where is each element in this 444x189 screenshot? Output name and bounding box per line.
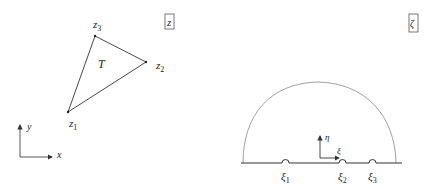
point-label-xi2: ξ2 [338,170,347,185]
point-label-xi1: ξ1 [281,170,290,185]
point-label-xi3: ξ3 [368,170,377,185]
real-axis-with-indentations [241,160,402,164]
conformal-map-diagram: z T z1 z2 z3 y x ζ η ξ ξ1 ξ2 ξ3 [0,0,444,189]
region-label-T: T [98,57,106,71]
vertex-label-z3: z3 [92,18,101,33]
semicircle-boundary [243,82,396,163]
zeta-plane-box-label: ζ [410,18,415,30]
triangle-T [68,36,146,112]
xi-axis-label: ξ [337,146,341,156]
eta-axis-label: η [325,132,330,142]
x-axis-label: x [56,149,62,160]
z-plane-panel: z T z1 z2 z3 y x [20,14,174,160]
vertex-z2-dot [145,61,147,63]
y-axis-label: y [26,121,32,132]
vertex-z3-dot [94,35,96,37]
z-plane-box-label: z [166,16,172,28]
vertex-z1-dot [67,111,69,113]
vertex-label-z1: z1 [68,117,77,132]
vertex-label-z2: z2 [155,59,164,74]
zeta-plane-panel: ζ η ξ ξ1 ξ2 ξ3 [241,14,418,185]
